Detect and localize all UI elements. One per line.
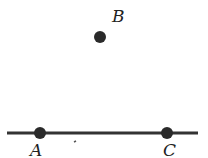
- tick-mark: [74, 141, 76, 142]
- point-b: [94, 31, 106, 43]
- geometry-diagram: A B C: [0, 0, 208, 158]
- label-b: B: [111, 6, 125, 26]
- point-a: [34, 127, 46, 139]
- point-c: [161, 127, 173, 139]
- label-c: C: [163, 140, 176, 158]
- label-a: A: [28, 140, 42, 158]
